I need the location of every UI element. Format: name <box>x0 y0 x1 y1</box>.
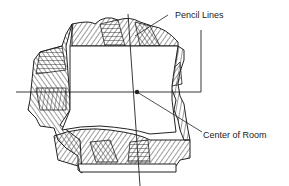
room-field <box>62 46 178 134</box>
center-of-room-label: Center of Room <box>203 130 267 140</box>
floor-layout-diagram <box>0 0 289 186</box>
pencil-lines-label: Pencil Lines <box>175 10 224 20</box>
